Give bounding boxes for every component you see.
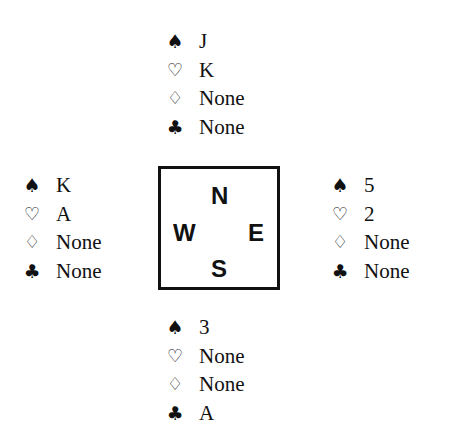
spade-icon: ♠ [329, 171, 351, 200]
south-clubs-holding: A [199, 399, 214, 428]
west-hearts-row: ♡ A [21, 200, 151, 229]
diamond-icon: ♢ [21, 228, 43, 257]
heart-icon: ♡ [329, 200, 351, 229]
west-diamonds-row: ♢ None [21, 228, 151, 257]
heart-icon: ♡ [21, 200, 43, 229]
south-diamonds-holding: None [199, 370, 245, 399]
north-spades-row: ♠ J [164, 27, 294, 56]
west-spades-holding: K [56, 171, 71, 200]
east-hearts-row: ♡ 2 [329, 200, 456, 229]
east-diamonds-row: ♢ None [329, 228, 456, 257]
east-clubs-row: ♣ None [329, 257, 456, 286]
diamond-icon: ♢ [329, 228, 351, 257]
north-clubs-holding: None [199, 113, 245, 142]
compass-north-label: N [211, 184, 228, 208]
north-hand: ♠ J ♡ K ♢ None ♣ None [164, 27, 294, 142]
heart-icon: ♡ [164, 342, 186, 371]
west-diamonds-holding: None [56, 228, 102, 257]
club-icon: ♣ [164, 399, 186, 428]
east-clubs-holding: None [364, 257, 410, 286]
club-icon: ♣ [329, 257, 351, 286]
diamond-icon: ♢ [164, 84, 186, 113]
spade-icon: ♠ [164, 313, 186, 342]
south-clubs-row: ♣ A [164, 399, 294, 428]
compass-box: N W E S [158, 166, 280, 290]
south-hearts-holding: None [199, 342, 245, 371]
west-hand: ♠ K ♡ A ♢ None ♣ None [21, 171, 151, 286]
compass-south-label: S [211, 257, 227, 281]
east-diamonds-holding: None [364, 228, 410, 257]
south-diamonds-row: ♢ None [164, 370, 294, 399]
west-clubs-row: ♣ None [21, 257, 151, 286]
heart-icon: ♡ [164, 56, 186, 85]
diamond-icon: ♢ [164, 370, 186, 399]
west-spades-row: ♠ K [21, 171, 151, 200]
north-diamonds-holding: None [199, 84, 245, 113]
spade-icon: ♠ [164, 27, 186, 56]
north-spades-holding: J [199, 27, 207, 56]
north-hearts-row: ♡ K [164, 56, 294, 85]
north-hearts-holding: K [199, 56, 214, 85]
west-hearts-holding: A [56, 200, 71, 229]
compass-east-label: E [248, 221, 264, 245]
east-spades-row: ♠ 5 [329, 171, 456, 200]
north-clubs-row: ♣ None [164, 113, 294, 142]
north-diamonds-row: ♢ None [164, 84, 294, 113]
south-spades-holding: 3 [199, 313, 210, 342]
compass-west-label: W [173, 221, 196, 245]
club-icon: ♣ [21, 257, 43, 286]
spade-icon: ♠ [21, 171, 43, 200]
west-clubs-holding: None [56, 257, 102, 286]
east-hearts-holding: 2 [364, 200, 375, 229]
south-hearts-row: ♡ None [164, 342, 294, 371]
east-hand: ♠ 5 ♡ 2 ♢ None ♣ None [329, 171, 456, 286]
south-hand: ♠ 3 ♡ None ♢ None ♣ A [164, 313, 294, 428]
east-spades-holding: 5 [364, 171, 375, 200]
south-spades-row: ♠ 3 [164, 313, 294, 342]
club-icon: ♣ [164, 113, 186, 142]
